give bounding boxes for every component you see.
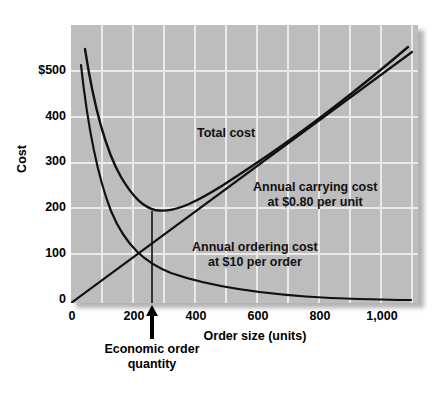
annual-carrying-cost-label-line2: at $0.80 per unit xyxy=(253,195,377,210)
x-tick-label: 600 xyxy=(228,309,288,323)
y-tick-label: 200 xyxy=(20,201,66,214)
y-axis-ticks: $500 400 300 200 100 0 xyxy=(16,0,66,393)
economic-order-quantity-caption-line2: quantity xyxy=(77,357,227,372)
x-axis-title: Order size (units) xyxy=(155,329,355,343)
total-cost-label: Total cost xyxy=(197,126,255,141)
y-tick-label: $500 xyxy=(20,64,66,77)
economic-order-quantity-caption-line1: Economic order xyxy=(77,342,227,357)
eoq-cost-chart: Total cost Annual carrying cost at $0.80… xyxy=(0,0,448,393)
plot-area: Total cost Annual carrying cost at $0.80… xyxy=(71,25,418,303)
x-tick-label: 0 xyxy=(42,309,102,323)
annual-ordering-cost-label-line1: Annual ordering cost xyxy=(192,240,318,255)
y-tick-label: 0 xyxy=(20,293,66,306)
economic-order-quantity-arrow-icon xyxy=(145,305,159,339)
x-tick-label: 400 xyxy=(166,309,226,323)
y-tick-label: 400 xyxy=(20,110,66,123)
annual-carrying-cost-label-line1: Annual carrying cost xyxy=(253,180,377,195)
x-tick-label: 800 xyxy=(290,309,350,323)
y-axis-title: Cost xyxy=(15,131,29,187)
x-tick-label: 1,000 xyxy=(352,309,412,323)
y-tick-label: 100 xyxy=(20,247,66,260)
annual-ordering-cost-label: Annual ordering cost at $10 per order xyxy=(192,240,318,270)
economic-order-quantity-caption: Economic order quantity xyxy=(77,342,227,372)
annual-carrying-cost-label: Annual carrying cost at $0.80 per unit xyxy=(253,180,377,210)
annual-ordering-cost-label-line2: at $10 per order xyxy=(192,255,318,270)
